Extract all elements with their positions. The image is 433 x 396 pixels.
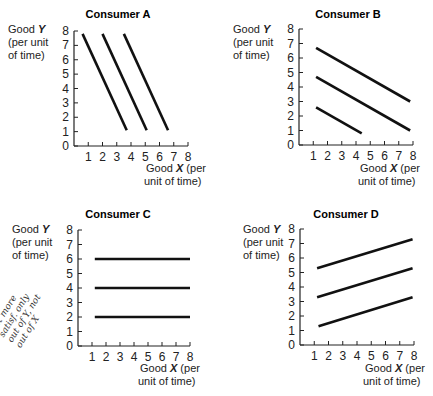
y-tick-label: 6: [288, 251, 295, 265]
x-tick-label: 4: [354, 349, 361, 363]
svg-text:unit of time): unit of time): [363, 375, 420, 387]
y-tick-label: 8: [288, 222, 295, 236]
x-tick-label: 8: [411, 349, 418, 363]
x-tick-label: 7: [396, 349, 403, 363]
x-axis-label: Good X (per: [365, 362, 425, 374]
x-tick-label: 5: [368, 349, 375, 363]
y-tick-label: 4: [288, 280, 295, 294]
chart-consumer-d: Consumer D01234567812345678Good Y(per un…: [0, 0, 433, 396]
y-axis-label: Good Y: [243, 223, 282, 235]
y-tick-label: 2: [288, 309, 295, 323]
svg-text:(per unit: (per unit: [243, 236, 283, 248]
y-tick-label: 5: [288, 266, 295, 280]
chart-title: Consumer D: [313, 208, 378, 220]
y-tick-label: 7: [288, 237, 295, 251]
indifference-curve: [317, 268, 412, 297]
svg-text:of time): of time): [243, 249, 280, 261]
x-tick-label: 6: [382, 349, 389, 363]
y-tick-label: 0: [288, 338, 295, 352]
indifference-curve: [317, 239, 412, 268]
y-tick-label: 3: [288, 295, 295, 309]
y-tick-label: 1: [288, 324, 295, 338]
x-tick-label: 2: [325, 349, 332, 363]
x-tick-label: 3: [339, 349, 346, 363]
x-tick-label: 1: [311, 349, 318, 363]
indifference-curve: [319, 297, 413, 326]
